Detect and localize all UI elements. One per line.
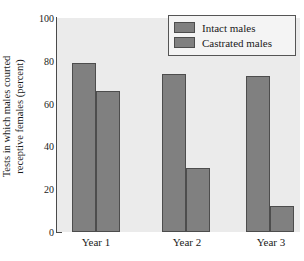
y-axis-tick-labels: 100 80 60 40 20 0 <box>28 0 54 261</box>
y-tick-label-0: 0 <box>30 227 54 238</box>
y-axis-title: Tests in which males courted receptive f… <box>0 0 28 232</box>
x-tick-label-year-1: Year 1 <box>82 236 111 248</box>
legend-label-castrated-males: Castrated males <box>202 37 272 49</box>
legend-swatch-icon-intact-males <box>174 22 195 33</box>
y-tick-label-100: 100 <box>30 13 54 24</box>
x-tick-label-year-3: Year 3 <box>257 236 286 248</box>
bar-year1-castrated-males <box>96 91 120 232</box>
y-tick-label-20: 20 <box>30 184 54 195</box>
bar-year3-intact-males <box>246 76 270 232</box>
x-axis-tick-labels: Year 1 Year 2 Year 3 <box>57 236 300 256</box>
y-tick-mark-0 <box>57 232 62 233</box>
y-axis-title-line2: receptive females (percent) <box>14 55 27 177</box>
legend-swatch-icon-castrated-males <box>174 37 195 48</box>
legend-label-intact-males: Intact males <box>202 22 255 34</box>
bar-year1-intact-males <box>72 63 96 232</box>
x-tick-label-year-2: Year 2 <box>173 236 202 248</box>
y-tick-label-80: 80 <box>30 55 54 66</box>
bar-year2-intact-males <box>162 74 186 232</box>
y-axis-title-line1: Tests in which males courted <box>2 55 13 177</box>
y-tick-label-40: 40 <box>30 141 54 152</box>
bar-year3-castrated-males <box>270 206 294 232</box>
chart-legend: Intact males Castrated males <box>168 15 296 56</box>
y-tick-label-60: 60 <box>30 98 54 109</box>
legend-entry-castrated-males: Castrated males <box>174 35 290 50</box>
bar-chart: Tests in which males courted receptive f… <box>0 0 304 261</box>
bar-year2-castrated-males <box>186 168 210 232</box>
legend-entry-intact-males: Intact males <box>174 20 290 35</box>
